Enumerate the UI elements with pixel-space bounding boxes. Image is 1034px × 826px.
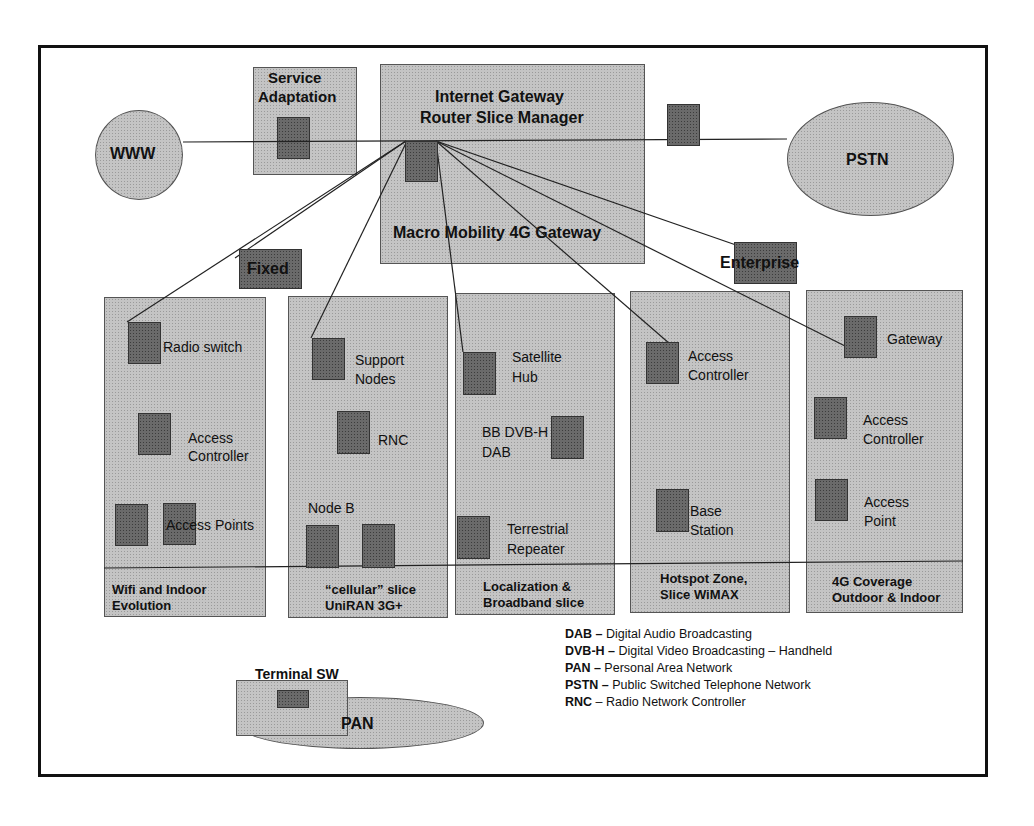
gateway-label: Gateway (887, 331, 942, 348)
terminal-sw-label: Terminal SW (255, 666, 339, 683)
gateway-device (844, 316, 877, 358)
terrestrial-repeater-device (457, 516, 490, 559)
access-controller-device (646, 342, 679, 384)
fixed-label: Fixed (247, 259, 289, 279)
radio-switch-label: Radio switch (163, 339, 242, 356)
node-b-device (306, 525, 339, 568)
legend-item: PSTN – Public Switched Telephone Network (565, 677, 832, 694)
base-station-label-1: Base (690, 503, 722, 520)
terminal-sw-box (236, 680, 348, 736)
pstn-gateway-device (667, 104, 700, 146)
satellite-hub-label-1: Satellite (512, 349, 562, 366)
rnc-device (337, 411, 370, 454)
legend-item: PAN – Personal Area Network (565, 660, 832, 677)
access-point-label-1: Access (864, 494, 909, 511)
access-controller-label-2: Controller (863, 431, 924, 448)
column-caption: 4G Coverage Outdoor & Indoor (832, 574, 1034, 606)
satellite-hub-label-2: Hub (512, 369, 538, 386)
access-point-label-2: Point (864, 513, 896, 530)
support-nodes-label-1: Support (355, 352, 404, 369)
satellite-hub-device (463, 352, 496, 395)
access-controller-device (814, 397, 847, 439)
support-nodes-label-2: Nodes (355, 371, 395, 388)
legend-item: RNC – Radio Network Controller (565, 694, 832, 711)
legend: DAB – Digital Audio Broadcasting DVB-H –… (565, 626, 832, 711)
access-points-label: Access Points (166, 517, 254, 534)
base-station-label-2: Station (690, 522, 734, 539)
support-nodes-device (312, 338, 345, 380)
legend-item: DAB – Digital Audio Broadcasting (565, 626, 832, 643)
access-controller-device (138, 413, 171, 455)
rnc-label: RNC (378, 432, 408, 449)
access-controller-label-2: Controller (188, 448, 249, 465)
terrestrial-repeater-label-1: Terrestrial (507, 521, 568, 538)
access-controller-label-1: Access (863, 412, 908, 429)
terminal-device (277, 690, 309, 708)
access-point-device (115, 504, 148, 546)
dvb-device (551, 416, 584, 459)
radio-switch-device (128, 322, 161, 364)
gateway-device (405, 141, 438, 182)
terrestrial-repeater-label-2: Repeater (507, 541, 565, 558)
legend-item: DVB-H – Digital Video Broadcasting – Han… (565, 643, 832, 660)
enterprise-label: Enterprise (720, 253, 799, 273)
node-b-label: Node B (308, 500, 355, 517)
access-point-device (815, 479, 848, 521)
dvb-label-1: BB DVB-H (482, 424, 548, 441)
access-controller-label-1: Access (688, 348, 733, 365)
base-station-device (656, 489, 689, 532)
pan-label: PAN (341, 714, 374, 734)
access-controller-label-1: Access (188, 430, 233, 447)
node-b-device (362, 524, 395, 568)
dvb-label-2: DAB (482, 444, 511, 461)
access-controller-label-2: Controller (688, 367, 749, 384)
